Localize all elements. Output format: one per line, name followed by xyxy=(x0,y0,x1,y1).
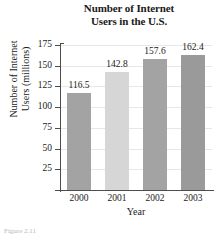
x-axis-line xyxy=(55,190,214,191)
y-axis-tick-label: 75 xyxy=(26,123,52,133)
bar-chart-figure: Number of Internet Users in the U.S. Num… xyxy=(0,0,219,235)
bar xyxy=(67,93,91,190)
x-axis-title: Year xyxy=(60,206,212,217)
y-axis-tick-label: 150 xyxy=(26,61,52,71)
y-axis-tick-label: 125 xyxy=(26,81,52,91)
y-axis-tick xyxy=(55,169,60,170)
x-axis-tick-label: 2003 xyxy=(173,193,213,203)
y-axis-title-line-1: Number of Internet xyxy=(8,20,20,138)
bar xyxy=(143,59,167,190)
y-axis-title: Number of Internet Users (millions) xyxy=(8,20,38,138)
figure-caption: Figure 2.11 xyxy=(4,228,78,234)
bar-value-label: 142.8 xyxy=(97,60,137,70)
x-axis-tick-label: 2000 xyxy=(59,193,99,203)
bar xyxy=(181,55,205,190)
y-axis-line xyxy=(60,43,61,192)
y-axis-tick xyxy=(55,149,60,150)
y-axis-tick xyxy=(55,128,60,129)
bar-value-label: 116.5 xyxy=(59,81,99,91)
bar-value-label: 162.4 xyxy=(173,43,213,53)
chart-title-line-2: Users in the U.S. xyxy=(44,15,214,28)
y-axis-tick xyxy=(55,45,60,46)
y-axis-tick-label: 50 xyxy=(26,144,52,154)
y-axis-top-cap xyxy=(60,43,64,44)
bar-value-label: 157.6 xyxy=(135,47,175,57)
bar xyxy=(105,72,129,190)
y-axis-tick xyxy=(55,66,60,67)
y-axis-tick-label: 175 xyxy=(26,40,52,50)
x-axis-tick-label: 2001 xyxy=(97,193,137,203)
y-axis-tick-label: 25 xyxy=(26,164,52,174)
chart-title-line-1: Number of Internet xyxy=(44,2,214,15)
x-axis-tick-label: 2002 xyxy=(135,193,175,203)
chart-title: Number of Internet Users in the U.S. xyxy=(44,2,214,27)
y-axis-tick xyxy=(55,107,60,108)
y-axis-tick-label: 100 xyxy=(26,102,52,112)
y-axis-title-line-2: Users (millions) xyxy=(20,20,32,138)
